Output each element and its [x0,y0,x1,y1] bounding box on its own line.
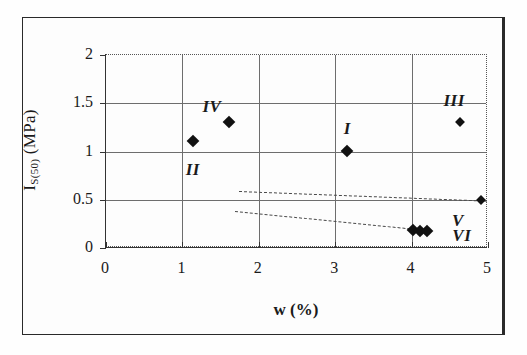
y-axis-label-main: I [20,185,39,191]
gridline-vertical [335,55,336,246]
gridline-vertical [412,55,413,246]
x-axis-label: w (%) [274,300,319,320]
x-axis-tick-label: 0 [101,259,109,277]
y-axis-label-sub: S(50) [28,159,40,185]
y-axis-tick-label: 0 [85,238,93,256]
gridline-vertical [259,55,260,246]
y-axis-tick-label: 1.5 [73,93,93,111]
x-axis-tick [488,242,489,248]
figure-container: 00.511.52012345IIIVIIIIVVI IS(50) (MPa) … [0,0,527,355]
x-axis-line [105,247,487,248]
x-axis-tick-label: 2 [254,259,262,277]
x-axis-tick-label: 5 [483,259,491,277]
x-axis-tick-label: 1 [177,259,185,277]
gridline-horizontal [106,152,486,153]
y-axis-label-unit: (MPa) [20,109,39,159]
gridline-horizontal [106,103,486,104]
y-axis-tick-label: 2 [85,45,93,63]
y-axis-tick-label: 0.5 [73,190,93,208]
gridline-vertical [182,55,183,246]
data-point-label-IV: IV [202,97,221,117]
y-axis-line [105,54,106,247]
x-axis-tick-label: 3 [330,259,338,277]
data-point-label-II: II [186,160,200,180]
data-point-label-III: III [443,91,464,111]
gridline-horizontal [106,200,486,201]
x-axis-tick-label: 4 [407,259,415,277]
data-point-label-VI: VI [452,226,471,246]
y-axis-tick-label: 1 [85,142,93,160]
y-axis-label: IS(50) (MPa) [20,109,40,190]
y-axis-tick [100,248,106,249]
data-point-label-I: I [344,119,351,139]
